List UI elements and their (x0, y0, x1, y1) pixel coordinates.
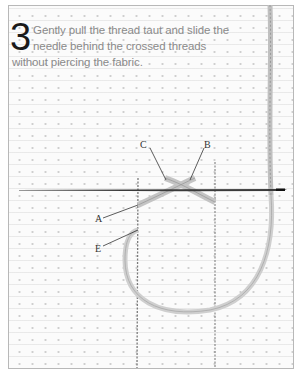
needle-eye (276, 189, 285, 192)
leader-b (190, 148, 204, 180)
step-number: 3 (10, 22, 31, 52)
label-a: A (95, 213, 102, 224)
instruction-block: 3 Gently pull the thread taut and slide … (12, 22, 242, 70)
label-c: C (140, 139, 147, 150)
fabric-stitch-line-left (137, 178, 138, 368)
needle (19, 189, 287, 191)
label-b: B (204, 139, 211, 150)
leader-e (103, 230, 138, 246)
label-e: E (95, 243, 101, 254)
thread-loop (125, 195, 272, 312)
instruction-text: Gently pull the thread taut and slide th… (12, 24, 229, 68)
leader-c (150, 148, 166, 180)
leader-a (103, 205, 138, 218)
